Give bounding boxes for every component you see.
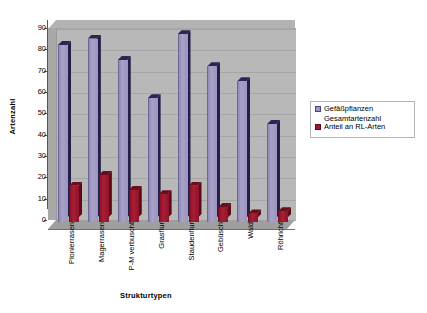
bar-front-face [248,213,258,222]
bar-front-face [129,190,139,222]
y-axis-tick-label: 40 [38,131,46,139]
legend-item-anteil-rl-arten[interactable]: Anteil an RL-Arten [315,123,411,132]
bar-1[interactable] [218,207,227,222]
x-axis-title: Strukturtypen [120,291,172,300]
x-axis-tick-label: Gebüsch [216,222,225,292]
bar-1[interactable] [99,175,108,222]
y-axis-tick-label: 0 [42,216,46,224]
bars-layer [48,20,303,235]
legend: Gefäßpflanzen Gesamtartenzahl Anteil an … [310,101,415,138]
bar-1[interactable] [159,194,168,222]
x-axis-tick-labels: PionierrasenMagerrasenP-M verbuschtGrasf… [48,232,303,292]
legend-item-gefaesspflanzen[interactable]: Gefäßpflanzen [315,105,411,114]
bar-1[interactable] [248,213,257,222]
bar-front-face [88,39,98,222]
bar-0[interactable] [267,124,276,222]
bar-front-face [58,45,68,222]
y-axis-title: Artenzahl [8,87,17,147]
bar-1[interactable] [278,211,287,222]
bar-front-face [207,66,217,222]
bar-front-face [189,186,199,222]
x-axis-tick-label: Pionierrasen [67,222,76,292]
x-axis-tick-label: Grasflur [157,222,166,292]
bar-front-face [99,175,109,222]
bar-0[interactable] [237,81,246,222]
bar-1[interactable] [69,186,78,222]
legend-swatch-purple-icon [315,106,321,112]
legend-label-gefaesspflanzen: Gefäßpflanzen [324,105,373,114]
bar-0[interactable] [118,60,127,222]
y-axis-tick-label: 10 [38,195,46,203]
bar-front-face [237,81,247,222]
bar-1[interactable] [129,190,138,222]
bar-0[interactable] [148,98,157,222]
x-axis-tick-label: Röhricht [276,222,285,292]
y-axis-tick-label: 20 [38,173,46,181]
y-axis-tick-label: 50 [38,109,46,117]
bar-1[interactable] [189,186,198,222]
bar-0[interactable] [207,66,216,222]
bar-front-face [278,211,288,222]
bar-chart: Artenzahl 0102030405060708090 Pionierras… [0,0,427,313]
y-axis-tick-label: 80 [38,45,46,53]
bar-front-face [69,186,79,222]
y-axis-tick-label: 90 [38,24,46,32]
x-axis-tick-label: Magerrasen [97,222,106,292]
bar-0[interactable] [178,34,187,222]
x-axis-tick-label: P-M verbuscht [127,222,136,292]
x-axis-tick-label: Wald [246,222,255,292]
bar-front-face [218,207,228,222]
bar-front-face [159,194,169,222]
legend-label-anteil-rl-arten: Anteil an RL-Arten [324,123,385,132]
y-axis-tick-label: 30 [38,152,46,160]
y-axis-tick-labels: 0102030405060708090 [24,20,46,220]
y-axis-tick-label: 70 [38,67,46,75]
bar-0[interactable] [88,39,97,222]
bar-front-face [178,34,188,222]
y-axis-tick-label: 60 [38,88,46,96]
bar-front-face [267,124,277,222]
legend-swatch-red-icon [315,124,321,130]
x-axis-tick-label: Staudenflur [187,222,196,292]
bar-front-face [118,60,128,222]
bar-front-face [148,98,158,222]
bar-0[interactable] [58,45,67,222]
